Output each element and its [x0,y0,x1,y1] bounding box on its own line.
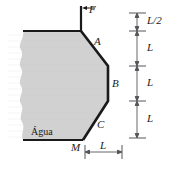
dim-arrow-2-up [135,31,139,36]
dim-label-l-3: L [147,113,153,124]
dim-arrow-4-down [135,134,139,139]
label-point-b: B [112,78,119,89]
figure-container: F A B C M Água L/2 L L L L [0,0,180,170]
label-point-m: M [71,142,80,153]
label-point-c: C [97,119,104,130]
force-arrow-head [82,6,87,10]
dim-label-l-1: L [147,42,153,53]
dim-label-l-half: L/2 [147,15,162,26]
vertical-dimension-chain [129,13,146,138]
hdim-arrow-left [85,150,90,154]
hdim-label-l: L [100,140,106,151]
dim-label-l-2: L [147,77,153,88]
dim-arrow-4-up [135,101,139,106]
label-force-f: F [89,4,96,15]
dim-arrow-1-up [135,13,139,18]
dim-arrow-3-up [135,66,139,71]
label-water: Água [31,127,53,137]
hdim-arrow-right [118,150,123,154]
label-point-a: A [94,36,101,47]
